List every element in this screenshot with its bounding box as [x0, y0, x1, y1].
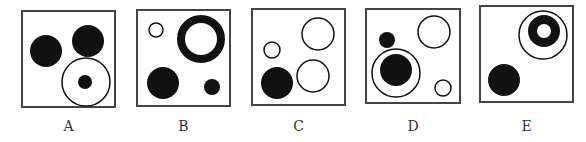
filled-circle — [30, 35, 62, 67]
option-panel-c[interactable] — [252, 9, 345, 105]
option-panel-d[interactable] — [366, 9, 460, 103]
option-label-d: D — [393, 118, 433, 134]
option-label-a: A — [49, 118, 89, 134]
option-label-e: E — [507, 118, 547, 134]
filled-circle — [147, 67, 179, 99]
filled-circle — [488, 64, 520, 96]
filled-circle — [261, 67, 293, 99]
filled-circle — [380, 54, 412, 86]
option-panel-b[interactable] — [137, 10, 230, 106]
filled-circle — [72, 25, 104, 57]
filled-circle — [78, 75, 92, 89]
option-label-c: C — [279, 118, 319, 134]
option-panel-a[interactable] — [22, 11, 115, 107]
filled-circle — [204, 79, 220, 95]
option-panel-e[interactable] — [480, 6, 573, 102]
option-label-b: B — [164, 118, 204, 134]
filled-circle — [379, 32, 395, 48]
